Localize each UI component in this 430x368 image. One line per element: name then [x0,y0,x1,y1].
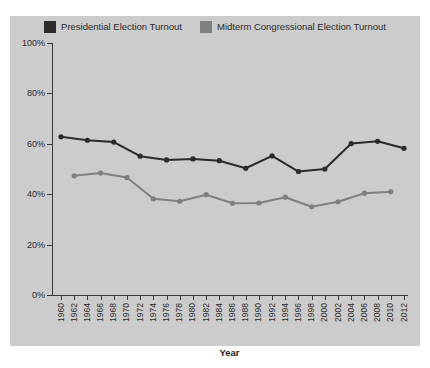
x-tick-label: 2000 [320,303,329,322]
data-point [85,138,90,143]
x-tick-label: 2008 [373,303,382,322]
data-point [309,204,314,209]
data-point [177,199,182,204]
legend-label-presidential: Presidential Election Turnout [61,22,182,32]
x-tick-label: 2006 [360,303,369,322]
x-tick-label: 1964 [83,303,92,322]
x-tick-label: 1992 [268,303,277,322]
x-tick-label: 1996 [294,303,303,322]
x-tick-label: 1978 [175,303,184,322]
y-tick-label: 20% [27,240,45,249]
data-point [362,191,367,196]
data-point [151,196,156,201]
x-axis-title: Year [52,347,407,358]
legend-item-presidential: Presidential Election Turnout [44,21,182,33]
legend-swatch-midterm [200,21,212,33]
data-point [335,199,340,204]
data-point [375,139,380,144]
x-tick-label: 1980 [188,303,197,322]
x-tick-label: 1982 [202,303,211,322]
chart-container: Presidential Election Turnout Midterm Co… [10,16,420,346]
chart-legend: Presidential Election Turnout Midterm Co… [10,16,420,38]
data-point [58,134,63,139]
x-tick-label: 1962 [70,303,79,322]
legend-item-midterm: Midterm Congressional Election Turnout [200,21,386,33]
data-point [111,139,116,144]
y-tick-label: 40% [27,190,45,199]
x-tick-label: 2004 [347,303,356,322]
x-tick-label: 1966 [96,303,105,322]
x-tick-label: 2012 [400,303,409,322]
data-point [322,166,327,171]
legend-swatch-presidential [44,21,56,33]
y-tick-label: 80% [27,89,45,98]
series-midterm [72,170,394,209]
data-point [388,189,393,194]
x-tick-label: 1994 [281,303,290,322]
data-point [217,158,222,163]
data-point [401,146,406,151]
y-tick-label: 0% [32,291,45,300]
x-tick-label: 1990 [254,303,263,322]
data-point [190,156,195,161]
data-point [230,201,235,206]
x-tick-label: 1998 [307,303,316,322]
data-point [204,192,209,197]
x-tick-label: 1970 [122,303,131,322]
data-point [269,153,274,158]
x-tick-label: 2002 [334,303,343,322]
x-tick-label: 2010 [386,303,395,322]
y-tick-label: 100% [22,39,45,48]
data-point [164,157,169,162]
data-point [72,173,77,178]
y-tick-label: 60% [27,139,45,148]
x-tick-label: 1976 [162,303,171,322]
x-tick-label: 1974 [149,303,158,322]
x-tick-label: 1988 [241,303,250,322]
data-point [283,195,288,200]
x-tick-label: 1984 [215,303,224,322]
data-point [296,169,301,174]
x-tick-label: 1986 [228,303,237,322]
plot-area: 0%20%40%60%80%100% 196019621964196619681… [52,43,407,295]
series-layer [52,43,408,296]
legend-label-midterm: Midterm Congressional Election Turnout [217,22,386,32]
data-point [124,175,129,180]
x-tick-label: 1960 [57,303,66,322]
data-point [256,200,261,205]
data-point [243,166,248,171]
series-presidential [58,134,406,174]
data-point [98,170,103,175]
x-tick-label: 1972 [136,303,145,322]
data-point [138,154,143,159]
x-tick-label: 1968 [109,303,118,322]
data-point [349,141,354,146]
